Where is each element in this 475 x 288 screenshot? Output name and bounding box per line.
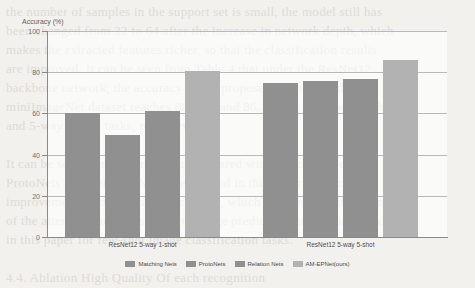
x-axis-line bbox=[47, 237, 448, 238]
legend-label: Matching Nets bbox=[138, 261, 176, 267]
bar-matching-nets-group-2 bbox=[263, 83, 298, 238]
y-tick-60 bbox=[42, 113, 47, 114]
y-tick-label-100: 100 bbox=[14, 28, 40, 35]
legend-swatch-icon bbox=[235, 261, 245, 267]
legend-item-1: Matching Nets bbox=[125, 261, 176, 267]
plot-area bbox=[47, 31, 447, 237]
bar-matching-nets-group-1 bbox=[65, 113, 100, 237]
legend-label: Relation Nets bbox=[248, 261, 284, 267]
legend-item-2: ProtoNets bbox=[186, 261, 226, 267]
bars-layer bbox=[47, 31, 447, 237]
bar-am-epnet-ours-group-1 bbox=[185, 71, 220, 237]
legend-swatch-icon bbox=[293, 261, 303, 267]
legend-swatch-icon bbox=[125, 261, 135, 267]
figure-screenshot: the number of samples in the support set… bbox=[0, 0, 475, 288]
y-axis-title: Accuracy (%) bbox=[22, 18, 64, 25]
legend-item-4: AM-EPNet(ours) bbox=[293, 261, 350, 267]
y-tick-80 bbox=[42, 72, 47, 73]
bar-protonets-group-1 bbox=[105, 135, 140, 237]
bar-chart-figure: 020406080100 Accuracy (%) Matching NetsP… bbox=[0, 0, 475, 288]
x-axis-group-label-1: ResNet12 5-way 1-shot bbox=[109, 241, 177, 248]
y-axis-tick-labels: 020406080100 bbox=[8, 0, 40, 288]
bar-relation-nets-group-1 bbox=[145, 111, 180, 237]
y-tick-20 bbox=[42, 196, 47, 197]
y-tick-label-80: 80 bbox=[14, 69, 40, 76]
chart-legend: Matching NetsProtoNetsRelation NetsAM-EP… bbox=[0, 261, 475, 267]
y-tick-40 bbox=[42, 155, 47, 156]
y-tick-label-40: 40 bbox=[14, 151, 40, 158]
x-axis-group-label-2: ResNet12 5-way 5-shot bbox=[307, 241, 375, 248]
y-tick-label-0: 0 bbox=[14, 234, 40, 241]
y-tick-label-20: 20 bbox=[14, 192, 40, 199]
bar-protonets-group-2 bbox=[303, 81, 338, 237]
legend-label: ProtoNets bbox=[199, 261, 226, 267]
bar-relation-nets-group-2 bbox=[343, 79, 378, 237]
y-axis-line bbox=[47, 31, 48, 237]
bar-am-epnet-ours-group-2 bbox=[383, 60, 418, 237]
y-tick-0 bbox=[42, 237, 47, 238]
legend-swatch-icon bbox=[186, 261, 196, 267]
legend-item-3: Relation Nets bbox=[235, 261, 284, 267]
y-tick-label-60: 60 bbox=[14, 110, 40, 117]
y-tick-100 bbox=[42, 31, 47, 32]
legend-label: AM-EPNet(ours) bbox=[306, 261, 350, 267]
